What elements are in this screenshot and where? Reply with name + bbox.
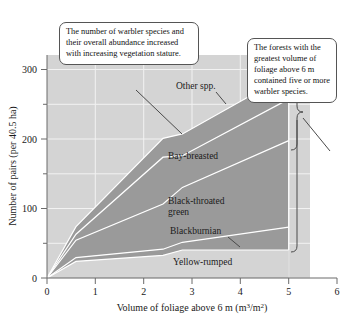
y-tick-label-0: 0 bbox=[32, 273, 37, 284]
band-label-black-throated-green-line1: Black-throated bbox=[168, 196, 225, 206]
x-axis-title-mid: /m bbox=[250, 302, 261, 313]
x-tick-label-5: 5 bbox=[286, 286, 291, 297]
callout-right: The forests with the greatest volume of … bbox=[247, 38, 337, 103]
band-label-black-throated-green-line2: green bbox=[168, 207, 189, 217]
y-axis-ticks bbox=[41, 70, 47, 279]
y-tick-label-300: 300 bbox=[22, 64, 37, 75]
x-tick-label-3: 3 bbox=[190, 286, 195, 297]
band-label-blackburnian: Blackburnian bbox=[170, 226, 221, 236]
band-label-yellow-rumped: Yellow-rumped bbox=[173, 257, 232, 267]
callout-left: The number of warbler species and their … bbox=[59, 22, 199, 65]
x-axis-title: Volume of foliage above 6 m (m3/m2) bbox=[117, 302, 268, 314]
y-tick-label-100: 100 bbox=[22, 203, 37, 214]
x-tick-label-1: 1 bbox=[93, 286, 98, 297]
band-label-bay-breasted: Bay-breasted bbox=[168, 151, 218, 161]
band-label-other-spp: Other spp. bbox=[176, 81, 216, 91]
figure-container: 0 100 200 300 0 1 2 3 4 5 6 Number of pa… bbox=[0, 0, 352, 320]
x-tick-label-6: 6 bbox=[335, 286, 340, 297]
x-tick-label-2: 2 bbox=[141, 286, 146, 297]
x-axis-title-end: ) bbox=[264, 302, 267, 314]
x-tick-label-0: 0 bbox=[45, 286, 50, 297]
y-axis-title: Number of pairs (per 40.5 ha) bbox=[7, 106, 19, 225]
y-tick-label-200: 200 bbox=[22, 134, 37, 145]
x-tick-label-4: 4 bbox=[238, 286, 243, 297]
x-axis-ticks bbox=[47, 278, 337, 284]
x-axis-title-main: Volume of foliage above 6 m (m bbox=[117, 302, 247, 314]
